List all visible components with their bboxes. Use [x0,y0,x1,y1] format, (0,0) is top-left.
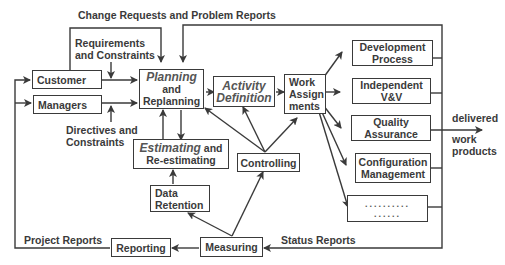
project-reports-label: Project Reports [24,234,102,246]
data-retention-label-line2: Retention [155,199,203,211]
other-label-line2: ...... [374,209,401,219]
estimating-box: Estimating and Re-estimating [133,139,229,169]
other-activities-box: .......... ...... [347,195,428,222]
activity-definition-box: Activity Definition [213,76,275,107]
independent-vv-box: Independent V&V [352,78,431,104]
configuration-management-box: Configuration Management [355,153,431,183]
controlling-box: Controlling [237,153,300,172]
planning-label-line3: Replanning [143,95,200,107]
data-retention-label-line1: Data [155,187,178,199]
cm-label-line2: Management [361,168,425,180]
software-project-management-diagram: Change Requests and Problem Reports Requ… [0,0,505,265]
activity-label-line1: Activity [222,80,265,92]
dev-process-label-line2: Process [372,53,413,65]
planning-box: Planning and Replanning [139,69,204,109]
measuring-label: Measuring [205,241,258,253]
controlling-label: Controlling [241,157,297,169]
directives-label-line1: Directives and [66,124,138,136]
reporting-box: Reporting [111,238,171,257]
managers-box: Managers [33,95,102,114]
ivv-label-line1: Independent [360,79,422,91]
managers-label: Managers [38,99,87,111]
ivv-label-line2: V&V [381,91,403,103]
estimating-label-italic: Estimating [140,141,201,155]
planning-label-line2: and [162,83,181,95]
work-products-label-line1: work [452,133,477,145]
requirements-label-line2: and Constraints [75,49,155,61]
activity-label-line2: Definition [216,92,271,104]
qa-label-line1: Quality [373,116,409,128]
customer-box: Customer [32,70,102,89]
measuring-box: Measuring [200,237,263,257]
data-retention-box: Data Retention [150,185,210,212]
quality-assurance-box: Quality Assurance [351,115,431,141]
estimating-label-line2: Re-estimating [146,154,215,166]
work-label-line2: Assign [289,88,324,100]
planning-label-line1: Planning [146,71,197,83]
directives-label-line2: Constraints [66,136,124,148]
reporting-label: Reporting [116,242,166,254]
work-assignments-box: Work Assign ments [284,74,326,114]
work-products-label-line2: products [452,145,497,157]
other-label-line1: .......... [365,199,410,209]
cm-label-line1: Configuration [359,156,428,168]
work-label-line1: Work [289,76,315,88]
estimating-label-rest: and [201,142,223,154]
status-reports-label: Status Reports [281,234,356,246]
dev-process-label-line1: Development [360,41,426,53]
requirements-label-line1: Requirements [75,37,145,49]
work-label-line3: ments [289,100,320,112]
development-process-box: Development Process [352,40,433,66]
change-requests-label: Change Requests and Problem Reports [78,9,276,21]
delivered-label: delivered [452,112,498,124]
qa-label-line2: Assurance [364,128,418,140]
customer-label: Customer [37,74,86,86]
